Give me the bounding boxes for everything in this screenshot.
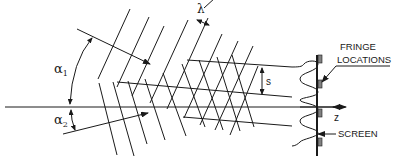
alpha1-label: α1 (54, 62, 68, 75)
z-axis-label: z (334, 113, 339, 123)
beam1-arrow (77, 29, 150, 64)
screen-label: SCREEN (338, 129, 378, 139)
beam2-wavefronts (99, 55, 254, 156)
spacing-label: s (266, 77, 271, 87)
beam2-arrow (63, 113, 148, 134)
fringe-markers (318, 55, 322, 146)
lambda-label: λ (197, 3, 205, 15)
interference-diagram: α1 α2 λ s z FRINGE LOCATIONS SCREEN (0, 0, 393, 160)
fringe-leader (322, 66, 390, 82)
intensity-curve (292, 61, 318, 146)
alpha1-angle-arc (70, 38, 92, 104)
alpha2-angle-arc (71, 110, 75, 130)
fringe-label-line1: FRINGE (340, 42, 376, 52)
diagram-drawing (0, 0, 393, 160)
beam1-wavefronts (98, 9, 258, 135)
alpha2-label: α2 (54, 113, 68, 126)
fringe-label-line2: LOCATIONS (337, 55, 391, 65)
